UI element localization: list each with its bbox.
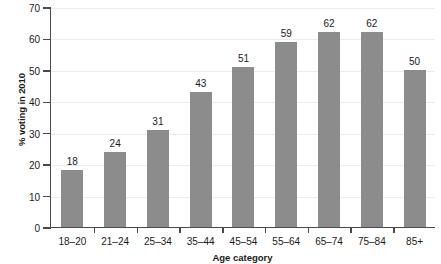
bar-value-label: 59 (281, 28, 292, 39)
y-axis-tick-label: 30 (29, 128, 40, 139)
x-axis-tick-label: 45–54 (230, 236, 258, 247)
x-axis-tick (179, 227, 180, 233)
y-axis-title: % voting in 2010 (16, 45, 27, 175)
y-axis-tick (43, 70, 51, 71)
bar[interactable] (147, 130, 169, 227)
bar-category[interactable]: 4335–44 (179, 8, 222, 227)
y-axis-tick (43, 133, 51, 134)
bar-value-label: 31 (152, 116, 163, 127)
bar-series: 1818–202421–243125–344335–445145–545955–… (51, 8, 435, 227)
x-axis-title: Age category (50, 252, 435, 263)
x-axis-tick-label: 18–20 (58, 236, 86, 247)
bar[interactable] (404, 70, 426, 227)
bar-category[interactable]: 1818–20 (51, 8, 94, 227)
y-axis-tick (43, 7, 51, 8)
bar-category[interactable]: 5145–54 (222, 8, 265, 227)
x-axis-tick-label: 65–74 (315, 236, 343, 247)
x-axis-tick (350, 227, 351, 233)
plot-area: 010203040506070 1818–202421–243125–34433… (50, 8, 435, 228)
x-axis-tick-label: 55–64 (272, 236, 300, 247)
bar[interactable] (361, 32, 383, 227)
y-axis-tick-label: 20 (29, 160, 40, 171)
x-axis-tick (393, 227, 394, 233)
bar[interactable] (232, 67, 254, 227)
bar[interactable] (275, 42, 297, 227)
y-axis-tick-label: 0 (34, 223, 40, 234)
y-axis-tick (43, 227, 51, 228)
x-axis-tick (308, 227, 309, 233)
bar-value-label: 43 (195, 78, 206, 89)
bar[interactable] (104, 152, 126, 227)
bar-category[interactable]: 6275–84 (350, 8, 393, 227)
y-axis-tick-label: 60 (29, 34, 40, 45)
bar-value-label: 24 (110, 138, 121, 149)
bar-value-label: 62 (323, 18, 334, 29)
x-axis-tick-label: 75–84 (358, 236, 386, 247)
bar[interactable] (61, 170, 83, 227)
x-axis-tick-label: 25–34 (144, 236, 172, 247)
y-axis-tick (43, 196, 51, 197)
bar-value-label: 62 (366, 18, 377, 29)
y-axis-tick-label: 70 (29, 3, 40, 14)
x-axis-tick (222, 227, 223, 233)
x-axis-tick-label: 21–24 (101, 236, 129, 247)
x-axis-tick (94, 227, 95, 233)
x-axis-tick-label: 35–44 (187, 236, 215, 247)
x-axis-tick-label: 85+ (406, 236, 423, 247)
bar-value-label: 18 (67, 156, 78, 167)
bar-category[interactable]: 5955–64 (265, 8, 308, 227)
y-axis-tick (43, 39, 51, 40)
bar-value-label: 51 (238, 53, 249, 64)
y-axis-tick-label: 50 (29, 65, 40, 76)
bar-category[interactable]: 2421–24 (94, 8, 137, 227)
x-axis-tick (265, 227, 266, 233)
bar-category[interactable]: 5085+ (393, 8, 436, 227)
bar[interactable] (318, 32, 340, 227)
bar-value-label: 50 (409, 56, 420, 67)
y-axis-tick-label: 10 (29, 191, 40, 202)
bar-category[interactable]: 3125–34 (137, 8, 180, 227)
bar-category[interactable]: 6265–74 (308, 8, 351, 227)
x-axis-tick (137, 227, 138, 233)
bar-chart: % voting in 2010 010203040506070 1818–20… (0, 0, 441, 264)
y-axis-tick (43, 102, 51, 103)
y-axis-tick (43, 164, 51, 165)
bar[interactable] (190, 92, 212, 227)
y-axis-tick-label: 40 (29, 97, 40, 108)
